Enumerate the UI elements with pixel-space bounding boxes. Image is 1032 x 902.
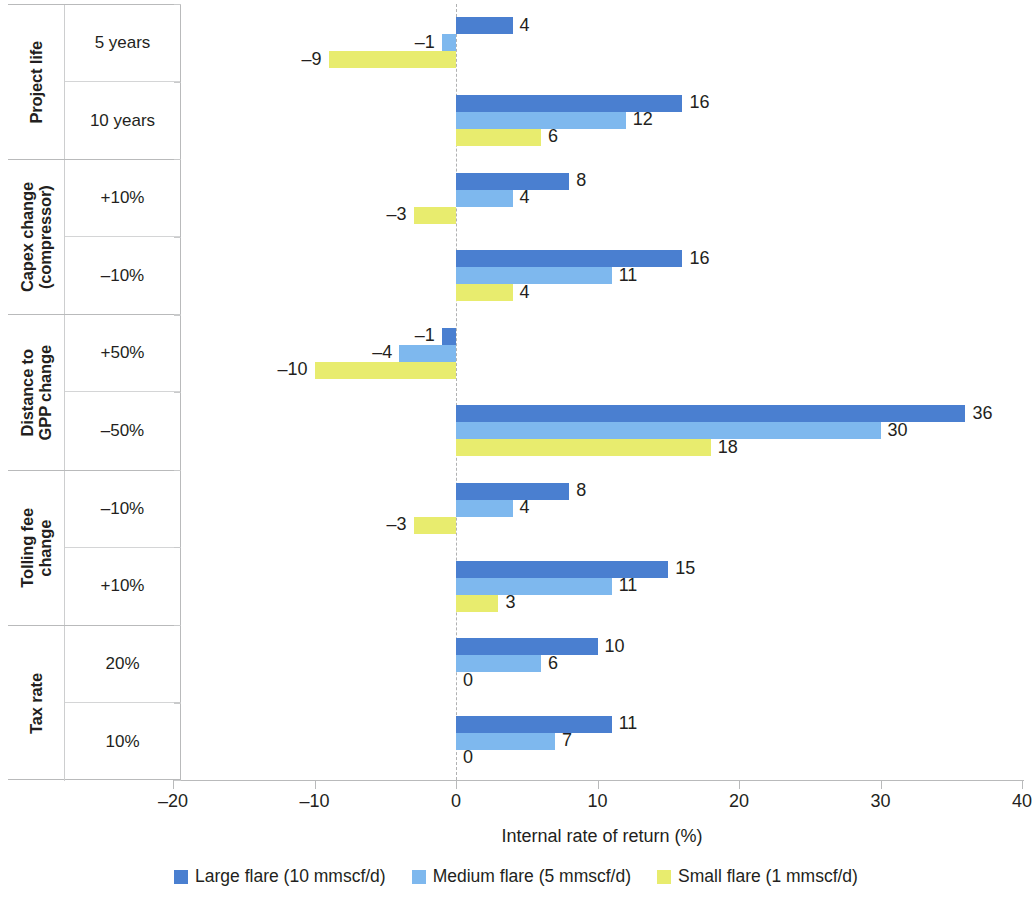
bar-value-label: –9: [302, 51, 322, 68]
bar-value-label: 36: [972, 405, 992, 422]
category-axis-tick: [174, 314, 181, 315]
category-subrow-label: 5 years: [65, 5, 180, 82]
legend-item[interactable]: Large flare (10 mmscf/d): [174, 866, 386, 887]
plot-area: 4–1–91612684–316114–1–4–1036301884–31511…: [180, 4, 1024, 780]
bar-medium: [442, 34, 456, 51]
bar-value-label: 12: [633, 111, 653, 128]
category-subrow-label: 20%: [65, 626, 180, 704]
bar-value-label: 4: [520, 284, 530, 301]
bar-value-label: –1: [415, 327, 435, 344]
category-group: Tax rate20%10%: [8, 626, 180, 781]
x-axis-tick-label: –20: [158, 791, 188, 812]
legend-label: Small flare (1 mmscf/d): [678, 866, 858, 887]
category-subrow-label: –10%: [65, 471, 180, 548]
bar-medium: [456, 422, 881, 439]
bar-value-label: 15: [675, 560, 695, 577]
bar-small: [414, 207, 456, 224]
bar-value-label: 6: [548, 655, 558, 672]
x-axis-title: Internal rate of return (%): [180, 826, 1024, 847]
category-group-label: Distance to GPP change: [8, 315, 64, 469]
legend-item[interactable]: Small flare (1 mmscf/d): [657, 866, 858, 887]
bar-large: [456, 250, 682, 267]
bar-value-label: 16: [689, 94, 709, 111]
bar-small: [315, 362, 457, 379]
bar-small: [456, 284, 513, 301]
bar-value-label: –3: [387, 516, 407, 533]
bar-value-label: 0: [463, 672, 473, 689]
x-axis-tick-label: 20: [729, 791, 749, 812]
bar-value-label: 30: [888, 422, 908, 439]
bar-small: [456, 595, 498, 612]
category-group-label-text: Tolling fee change: [18, 508, 55, 588]
category-subrow-column: 5 years10 years: [64, 5, 180, 159]
bar-value-label: –3: [387, 206, 407, 223]
category-axis-tick: [174, 780, 181, 781]
bar-value-label: –1: [415, 34, 435, 51]
x-axis-tick-label: 0: [451, 791, 461, 812]
category-subrow-label: +10%: [65, 160, 180, 237]
category-group: Project life5 years10 years: [8, 5, 180, 160]
legend-swatch-icon: [174, 870, 188, 884]
bar-value-label: 6: [548, 128, 558, 145]
legend-label: Large flare (10 mmscf/d): [195, 866, 386, 887]
category-subrow-column: +10%–10%: [64, 160, 180, 314]
bar-small: [456, 129, 541, 146]
bar-small: [456, 439, 711, 456]
bar-value-label: 10: [605, 638, 625, 655]
chart-page: Project life5 years10 yearsCapex change …: [0, 0, 1032, 902]
bar-medium: [456, 578, 612, 595]
category-subrow-label: –10%: [65, 237, 180, 314]
category-axis-tick: [174, 392, 181, 393]
x-axis-tick: [456, 780, 457, 789]
category-subrow-label: –50%: [65, 392, 180, 469]
bar-medium: [399, 345, 456, 362]
category-subrow-label: 10 years: [65, 82, 180, 159]
bar-value-label: 4: [520, 499, 530, 516]
x-axis-tick-label: 40: [1012, 791, 1032, 812]
x-axis-tick: [598, 780, 599, 789]
x-axis-tick: [1022, 780, 1023, 789]
chart-legend: Large flare (10 mmscf/d)Medium flare (5 …: [0, 866, 1032, 887]
legend-swatch-icon: [657, 870, 671, 884]
category-group: Tolling fee change–10%+10%: [8, 471, 180, 626]
category-group-label-text: Distance to GPP change: [18, 345, 55, 440]
bar-medium: [456, 190, 513, 207]
category-group: Distance to GPP change+50%–50%: [8, 315, 180, 470]
category-axis-tick: [174, 159, 181, 160]
category-group: Capex change (compressor)+10%–10%: [8, 160, 180, 315]
category-subrow-label: 10%: [65, 703, 180, 781]
category-subrow-column: –10%+10%: [64, 471, 180, 625]
category-group-label: Tolling fee change: [8, 471, 64, 625]
bar-value-label: 8: [576, 482, 586, 499]
bar-small: [329, 51, 456, 68]
bar-large: [442, 328, 456, 345]
category-axis-tick: [174, 547, 181, 548]
x-axis-tick: [881, 780, 882, 789]
x-axis-line: [180, 780, 1024, 781]
category-axis-table: Project life5 years10 yearsCapex change …: [8, 4, 180, 780]
x-axis-tick-label: –10: [299, 791, 329, 812]
legend-item[interactable]: Medium flare (5 mmscf/d): [412, 866, 631, 887]
bar-value-label: 11: [619, 715, 638, 732]
x-axis-tick-label: 10: [587, 791, 607, 812]
bar-large: [456, 483, 569, 500]
category-axis-tick: [174, 4, 181, 5]
category-axis-tick: [174, 625, 181, 626]
bar-medium: [456, 267, 612, 284]
legend-label: Medium flare (5 mmscf/d): [433, 866, 631, 887]
category-group-label-text: Tax rate: [27, 673, 45, 734]
category-axis-tick: [174, 82, 181, 83]
bar-value-label: 11: [619, 267, 638, 284]
bar-value-label: 4: [520, 17, 530, 34]
x-axis-tick: [315, 780, 316, 789]
bar-large: [456, 173, 569, 190]
x-axis-tick: [739, 780, 740, 789]
category-group-label-text: Capex change (compressor): [18, 182, 55, 292]
bar-value-label: 4: [520, 189, 530, 206]
bar-medium: [456, 500, 513, 517]
bar-value-label: 3: [505, 594, 515, 611]
category-subrow-column: +50%–50%: [64, 315, 180, 469]
bar-large: [456, 17, 513, 34]
category-group-label: Tax rate: [8, 626, 64, 781]
category-group-label-text: Project life: [27, 41, 45, 124]
